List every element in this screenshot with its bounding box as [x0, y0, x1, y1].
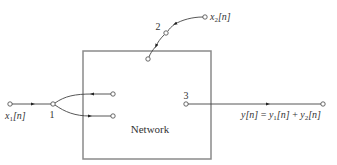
- x1-terminal: [8, 102, 12, 106]
- network-diagram: Network 1 x1[n] 2 x2[n] 3: [0, 0, 337, 165]
- network-label: Network: [131, 123, 170, 135]
- node-1: [51, 102, 55, 106]
- output-branch: 3 y[n] = y1[n] + y2[n]: [184, 90, 326, 122]
- input-x1-branch: 1 x1[n]: [4, 92, 115, 123]
- x2-terminal: [203, 15, 207, 19]
- node-3: [184, 102, 188, 106]
- node-2-label: 2: [156, 21, 161, 32]
- upper-branch-terminal: [111, 92, 115, 96]
- lower-branch-terminal: [111, 114, 115, 118]
- x2-label: x2[n]: [209, 11, 231, 24]
- x1-label: x1[n]: [4, 110, 26, 123]
- output-label: y[n] = y1[n] + y2[n]: [240, 109, 321, 122]
- node-1-label: 1: [50, 109, 55, 120]
- node-3-label: 3: [184, 90, 189, 101]
- network-block: [83, 51, 211, 159]
- input-x2-branch: 2 x2[n]: [146, 11, 231, 61]
- x2-inner-terminal: [146, 57, 150, 61]
- output-terminal: [321, 102, 325, 106]
- node-2: [164, 31, 168, 35]
